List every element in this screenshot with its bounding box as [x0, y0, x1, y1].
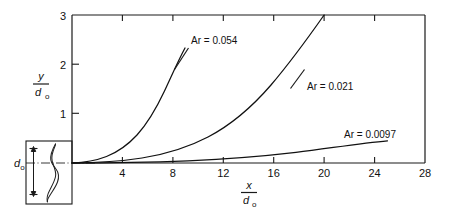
- curve-ar-00097: [72, 141, 388, 163]
- annotation-ar-0054: Ar = 0.054: [191, 35, 238, 46]
- y-axis-title-group: y d o: [33, 70, 50, 101]
- x-axis-title-denominator-sub: o: [252, 200, 257, 209]
- y-axis-title-denominator: d: [35, 86, 42, 98]
- x-axis-title-denominator: d: [243, 194, 250, 206]
- annotation-ar-00097: Ar = 0.0097: [344, 129, 396, 140]
- leader-line-ar-0054: [175, 48, 189, 70]
- x-tick-label-8: 8: [170, 167, 176, 179]
- x-tick-label-12: 12: [217, 167, 229, 179]
- y-tick-label-2: 2: [60, 59, 66, 71]
- x-axis-title-numerator: x: [245, 179, 252, 191]
- jet-vortex-glyph-lower: [47, 164, 56, 202]
- series-annotations-group: Ar = 0.054 Ar = 0.021 Ar = 0.0097: [191, 35, 396, 140]
- figure-root: do 1 2 3 y d o: [0, 0, 449, 216]
- y-tick-label-3: 3: [60, 10, 66, 22]
- x-tick-label-20: 20: [318, 167, 330, 179]
- orifice-diameter-label-sub: o: [20, 163, 25, 172]
- plot-frame-group: [72, 15, 425, 163]
- orifice-inset-group: do: [14, 141, 96, 204]
- x-tick-label-24: 24: [368, 167, 380, 179]
- orifice-diameter-label: do: [14, 157, 25, 172]
- y-tick-label-1: 1: [60, 108, 66, 120]
- annotation-ar-0021: Ar = 0.021: [307, 81, 354, 92]
- y-axis-title-numerator: y: [37, 70, 45, 82]
- x-axis-title-group: x d o: [241, 179, 257, 209]
- jet-trajectory-chart: do 1 2 3 y d o: [0, 0, 449, 216]
- leader-line-ar-0021: [291, 70, 305, 89]
- y-axis-ticks-group: 1 2 3: [60, 10, 79, 120]
- x-tick-label-28: 28: [419, 167, 431, 179]
- curve-ar-0054: [72, 48, 185, 163]
- x-tick-label-16: 16: [268, 167, 280, 179]
- x-tick-label-4: 4: [119, 167, 125, 179]
- y-axis-title-denominator-sub: o: [45, 92, 50, 101]
